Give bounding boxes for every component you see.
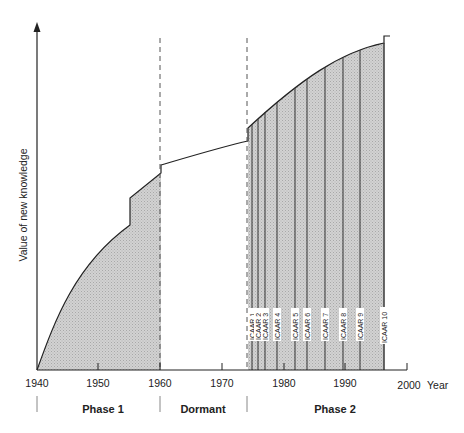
tick-1940: 1940: [25, 377, 49, 389]
tick-1970: 1970: [210, 377, 234, 389]
tick-1950: 1950: [86, 377, 110, 389]
icaar-label-6: ICAAR 6: [304, 313, 311, 340]
tick-1980: 1980: [272, 377, 296, 389]
knowledge-chart: 1940 1950 1960 1970 1980 1990 2000 Year …: [0, 0, 464, 433]
phase-label-1: Phase 1: [82, 403, 124, 415]
icaar-label-5: ICAAR 5: [292, 313, 299, 340]
y-axis-title: Value of new knowledge: [17, 148, 29, 261]
icaar-label-10: ICAAR 10: [381, 312, 388, 343]
icaar-label-7: ICAAR 7: [322, 313, 329, 340]
icaar-label-8: ICAAR 8: [340, 313, 347, 340]
y-axis-arrow-icon: [34, 22, 41, 32]
phase1-area: [37, 173, 161, 370]
icaar-label-3: ICAAR 3: [262, 313, 269, 340]
icaar-label-2: ICAAR 2: [255, 313, 262, 340]
tick-1990: 1990: [333, 377, 357, 389]
tick-1960: 1960: [148, 377, 172, 389]
icaar-label-9: ICAAR 9: [357, 313, 364, 340]
phase-label-dormant: Dormant: [180, 403, 226, 415]
icaar-label-4: ICAAR 4: [274, 313, 281, 340]
phase-label-2: Phase 2: [314, 403, 356, 415]
tick-2000: 2000: [397, 379, 421, 391]
x-axis-title: Year: [427, 379, 449, 391]
